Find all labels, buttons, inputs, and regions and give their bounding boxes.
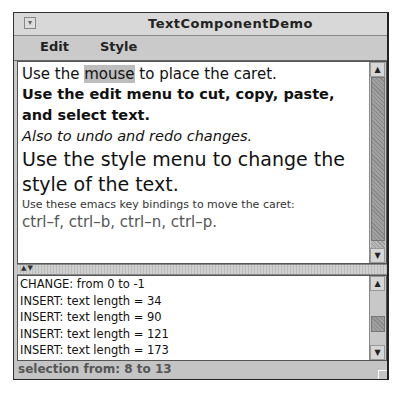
scroll-thumb[interactable] [371,316,385,332]
scroll-up-arrow-icon[interactable]: ▲ [370,276,385,291]
text-line-5: Use the style menu to change the [22,147,366,172]
log-vertical-scrollbar[interactable]: ▲ ▼ [369,276,386,360]
app-window: ▾ TextComponentDemo Edit Style Use the m… [13,12,389,380]
scroll-thumb[interactable] [371,77,385,241]
title-bar[interactable]: ▾ TextComponentDemo [14,13,387,36]
menu-edit[interactable]: Edit [40,39,69,54]
log-line: CHANGE: from 0 to -1 [20,276,366,293]
status-bar: selection from: 8 to 13 [14,361,387,379]
styled-text-content[interactable]: Use the mouse to place the caret. Use th… [22,64,366,232]
resize-grip-icon[interactable] [378,370,387,379]
text-fragment: to place the caret. [135,65,277,83]
scroll-up-arrow-icon[interactable]: ▲ [370,62,385,77]
log-content: CHANGE: from 0 to -1 INSERT: text length… [20,276,366,359]
log-line: INSERT: text length = 121 [20,326,366,343]
text-editor-pane[interactable]: Use the mouse to place the caret. Use th… [17,61,387,264]
menu-bar: Edit Style [14,36,387,61]
log-line: INSERT: text length = 90 [20,309,366,326]
text-line-1: Use the mouse to place the caret. [22,64,366,84]
text-vertical-scrollbar[interactable]: ▲ ▼ [369,62,386,263]
scroll-down-arrow-icon[interactable]: ▼ [370,248,385,263]
log-line: INSERT: text length = 34 [20,293,366,310]
text-fragment: Use the [22,65,84,83]
caret-status: selection from: 8 to 13 [18,362,172,376]
menu-style[interactable]: Style [100,39,137,54]
scroll-down-arrow-icon[interactable]: ▼ [370,345,385,360]
text-line-3: and select text. [22,105,366,126]
change-log-pane[interactable]: CHANGE: from 0 to -1 INSERT: text length… [17,275,387,361]
log-line: INSERT: text length = 173 [20,342,366,359]
window-title: TextComponentDemo [14,16,387,31]
text-line-6: style of the text. [22,172,366,197]
divider-arrows-icon[interactable]: ▲▼ [21,264,34,272]
split-pane-divider[interactable]: ▲▼ [17,264,387,275]
text-line-8: ctrl–f, ctrl–b, ctrl–n, ctrl–p. [22,212,366,232]
text-line-7: Use these emacs key bindings to move the… [22,197,366,212]
text-line-4: Also to undo and redo changes. [22,126,366,147]
text-line-2: Use the edit menu to cut, copy, paste, [22,84,366,105]
selected-text[interactable]: mouse [84,65,134,83]
